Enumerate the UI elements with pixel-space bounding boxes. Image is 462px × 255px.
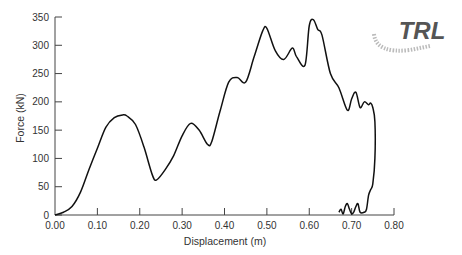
x-tick-label: 0.50 xyxy=(257,220,277,231)
y-tick-label: 50 xyxy=(38,181,50,192)
y-tick-label: 300 xyxy=(32,40,49,51)
y-tick-label: 250 xyxy=(32,68,49,79)
y-tick-label: 200 xyxy=(32,96,49,107)
axes xyxy=(55,17,394,215)
logo-text: TRL xyxy=(399,17,446,44)
y-tick-label: 0 xyxy=(43,210,49,221)
x-tick-label: 0.10 xyxy=(88,220,108,231)
x-tick-label: 0.20 xyxy=(130,220,150,231)
x-tick-label: 0.70 xyxy=(342,220,362,231)
ticks: 0.000.100.200.300.400.500.600.700.800501… xyxy=(32,12,404,232)
x-tick-label: 0.00 xyxy=(45,220,65,231)
y-tick-label: 350 xyxy=(32,12,49,23)
y-tick-label: 150 xyxy=(32,125,49,136)
x-tick-label: 0.60 xyxy=(300,220,320,231)
x-tick-label: 0.40 xyxy=(215,220,235,231)
x-tick-label: 0.80 xyxy=(384,220,404,231)
force-curve xyxy=(55,19,375,215)
x-axis-label: Displacement (m) xyxy=(184,235,266,247)
y-tick-label: 100 xyxy=(32,153,49,164)
trl-logo: TRL xyxy=(370,14,455,59)
y-axis-label: Force (kN) xyxy=(14,93,26,143)
x-tick-label: 0.30 xyxy=(172,220,192,231)
